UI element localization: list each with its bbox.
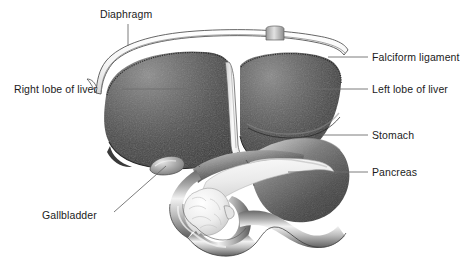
label-diaphragm: Diaphragm <box>100 8 152 20</box>
anatomy-figure: Diaphragm Falciform ligament Right lobe … <box>0 0 463 269</box>
label-right-lobe-of-liver: Right lobe of liver <box>14 83 97 95</box>
label-left-lobe-of-liver: Left lobe of liver <box>372 83 448 95</box>
pancreas-head <box>184 188 230 235</box>
label-falciform-ligament: Falciform ligament <box>372 51 460 63</box>
right-lobe-body <box>104 51 233 168</box>
anatomy-illustration: Diaphragm Falciform ligament Right lobe … <box>0 0 463 269</box>
esophagus-stub <box>266 26 284 40</box>
right-lobe-of-liver-structure <box>104 51 233 168</box>
label-gallbladder: Gallbladder <box>42 209 97 221</box>
label-pancreas: Pancreas <box>372 166 417 178</box>
label-stomach: Stomach <box>372 129 414 141</box>
